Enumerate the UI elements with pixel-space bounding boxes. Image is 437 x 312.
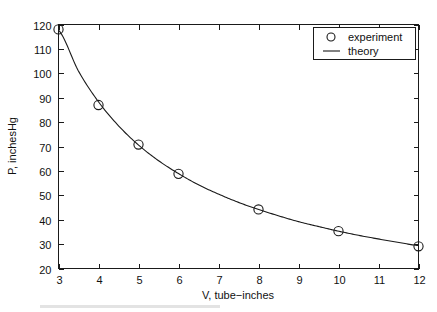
x-tick-label: 4: [96, 274, 102, 286]
y-tick-label: 110: [34, 44, 52, 56]
y-tick-label: 90: [39, 93, 51, 105]
y-tick-label: 100: [33, 68, 51, 80]
pressure-volume-chart: 2030405060708090100110120 3456789101112 …: [0, 0, 437, 312]
legend: experiment theory: [314, 28, 416, 60]
x-tick-label: 11: [374, 274, 385, 286]
x-tick-label: 7: [216, 274, 222, 286]
x-tick-label: 10: [333, 274, 345, 286]
x-tick-label: 3: [56, 274, 62, 286]
x-axis: 3456789101112: [56, 25, 425, 286]
legend-label-theory: theory: [348, 45, 379, 57]
x-tick-label: 5: [136, 274, 142, 286]
x-tick-label: 6: [176, 274, 182, 286]
x-axis-label: V, tube−inches: [202, 289, 275, 301]
y-tick-label: 60: [39, 166, 51, 178]
y-tick-label: 30: [39, 239, 51, 251]
scan-artifact: [40, 305, 220, 308]
y-tick-label: 120: [33, 20, 51, 32]
x-tick-label: 12: [413, 274, 425, 286]
y-tick-label: 80: [39, 117, 51, 129]
y-axis-label: P, inchesHg: [6, 117, 18, 175]
x-tick-label: 9: [296, 274, 302, 286]
y-tick-label: 70: [39, 142, 51, 154]
theory-curve: [59, 30, 419, 245]
y-tick-label: 40: [39, 215, 51, 227]
y-tick-label: 20: [39, 264, 51, 276]
legend-label-experiment: experiment: [348, 31, 402, 43]
x-tick-label: 8: [256, 274, 262, 286]
y-tick-label: 50: [39, 190, 51, 202]
plot-frame: [59, 25, 419, 269]
